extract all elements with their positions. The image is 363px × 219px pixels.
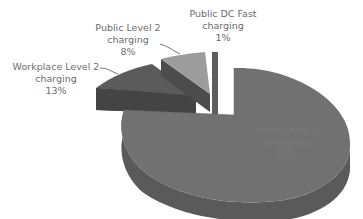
- label-workplace: Workplace Level 2 charging 13%: [10, 61, 102, 97]
- label-workplace-line2: charging: [10, 73, 102, 85]
- label-home-pct: 78%: [246, 148, 326, 160]
- label-public-level2-pct: 8%: [88, 46, 168, 58]
- leader-workplace: [100, 68, 118, 74]
- label-dc-fast-line1: Public DC Fast: [183, 8, 263, 20]
- pie-chart: [0, 0, 363, 219]
- label-public-level2: Public Level 2 charging 8%: [88, 22, 168, 58]
- label-home-line1: Home Level 2: [246, 124, 326, 136]
- label-dc-fast-pct: 1%: [183, 32, 263, 44]
- slice-dc-fast: [212, 52, 218, 116]
- label-public-level2-line1: Public Level 2: [88, 22, 168, 34]
- label-dc-fast: Public DC Fast charging 1%: [183, 8, 263, 44]
- label-workplace-pct: 13%: [10, 85, 102, 97]
- label-public-level2-line2: charging: [88, 34, 168, 46]
- label-workplace-line1: Workplace Level 2: [10, 61, 102, 73]
- label-dc-fast-line2: charging: [183, 20, 263, 32]
- label-home: Home Level 2 charging 78%: [246, 124, 326, 160]
- label-home-line2: charging: [246, 136, 326, 148]
